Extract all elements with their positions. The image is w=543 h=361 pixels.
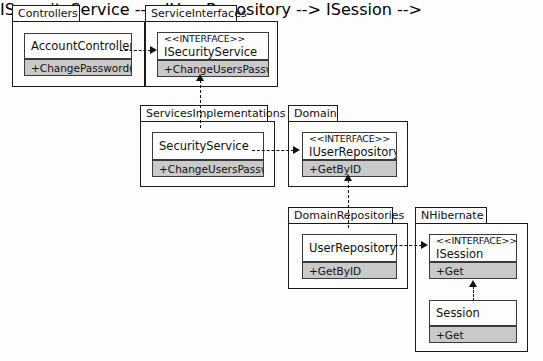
class-user-repository[interactable]: UserRepository +GetByID bbox=[302, 234, 397, 279]
arrowhead-right bbox=[150, 46, 157, 54]
arrowhead-right bbox=[421, 241, 428, 249]
class-header-isecurity-service: <<INTERFACE>> ISecurityService bbox=[158, 33, 268, 59]
package-tab-service-interfaces: ServiceInterfaces bbox=[145, 5, 237, 22]
class-isession[interactable]: <<INTERFACE>> ISession +Get bbox=[429, 234, 517, 279]
class-session[interactable]: Session +Get bbox=[429, 300, 517, 343]
class-stereotype-iuser-repository: <<INTERFACE>> bbox=[309, 133, 390, 145]
class-name-isecurity-service: ISecurityService bbox=[164, 45, 262, 59]
class-name-iuser-repository: IUserRepository bbox=[309, 145, 390, 159]
dependency-securityservice-to-iuserrepository bbox=[252, 150, 294, 151]
package-tab-services-implementations: ServicesImplementations bbox=[140, 105, 268, 122]
package-controllers[interactable]: Controllers AccountController +ChangePas… bbox=[12, 5, 145, 87]
package-label-services-implementations: ServicesImplementations bbox=[146, 108, 285, 119]
package-label-domain: Domain bbox=[294, 108, 337, 119]
class-operation-isecurity-service: +ChangeUsersPassword bbox=[158, 61, 268, 77]
class-header-isession: <<INTERFACE>> ISession bbox=[430, 235, 516, 261]
package-label-controllers: Controllers bbox=[18, 8, 78, 19]
class-operation-session: +Get bbox=[430, 327, 516, 343]
realization-securityservice-to-isecurityservice bbox=[200, 80, 201, 128]
class-name-account-controller: AccountController bbox=[31, 39, 125, 53]
class-operation-security-service: +ChangeUsersPassword bbox=[153, 161, 263, 177]
class-name-user-repository: UserRepository bbox=[309, 241, 390, 255]
package-tab-nhibernate: NHibernate bbox=[415, 207, 487, 224]
class-operation-account-controller: +ChangePassword() bbox=[25, 60, 131, 76]
class-name-security-service: SecurityService bbox=[159, 139, 257, 153]
package-label-service-interfaces: ServiceInterfaces bbox=[151, 8, 247, 19]
class-name-isession: ISession bbox=[436, 247, 510, 261]
class-operation-user-repository: +GetByID bbox=[303, 263, 396, 279]
class-header-session: Session bbox=[430, 301, 516, 325]
realization-session-to-isession bbox=[473, 286, 474, 301]
realization-userrepository-to-iuserrepository bbox=[348, 180, 349, 228]
class-header-user-repository: UserRepository bbox=[303, 235, 396, 261]
package-service-interfaces[interactable]: ServiceInterfaces <<INTERFACE>> ISecurit… bbox=[145, 5, 278, 87]
class-header-account-controller: AccountController bbox=[25, 34, 131, 58]
arrowhead-up bbox=[469, 280, 477, 287]
arrowhead-right bbox=[293, 146, 300, 154]
class-account-controller[interactable]: AccountController +ChangePassword() bbox=[24, 33, 132, 76]
class-header-security-service: SecurityService bbox=[153, 133, 263, 159]
class-stereotype-isecurity-service: <<INTERFACE>> bbox=[164, 33, 262, 45]
class-security-service[interactable]: SecurityService +ChangeUsersPassword bbox=[152, 132, 264, 177]
class-header-iuser-repository: <<INTERFACE>> IUserRepository bbox=[303, 133, 396, 159]
class-iuser-repository[interactable]: <<INTERFACE>> IUserRepository +GetByID bbox=[302, 132, 397, 177]
dependency-userrepository-to-isession bbox=[385, 245, 422, 246]
class-stereotype-isession: <<INTERFACE>> bbox=[436, 235, 510, 247]
arrowhead-up bbox=[344, 174, 352, 181]
class-operation-isession: +Get bbox=[430, 263, 516, 279]
class-name-session: Session bbox=[436, 306, 510, 320]
package-tab-controllers: Controllers bbox=[12, 5, 80, 22]
package-label-nhibernate: NHibernate bbox=[421, 210, 483, 221]
class-diagram-canvas: Controllers AccountController +ChangePas… bbox=[0, 0, 543, 361]
package-tab-domain-repositories: DomainRepositories bbox=[288, 207, 393, 224]
package-services-implementations[interactable]: ServicesImplementations SecurityService … bbox=[140, 105, 275, 187]
package-tab-domain: Domain bbox=[288, 105, 338, 122]
arrowhead-up bbox=[196, 74, 204, 81]
dependency-accountcontroller-to-isecurityservice bbox=[120, 50, 151, 51]
class-isecurity-service[interactable]: <<INTERFACE>> ISecurityService +ChangeUs… bbox=[157, 32, 269, 77]
package-label-domain-repositories: DomainRepositories bbox=[294, 210, 404, 221]
